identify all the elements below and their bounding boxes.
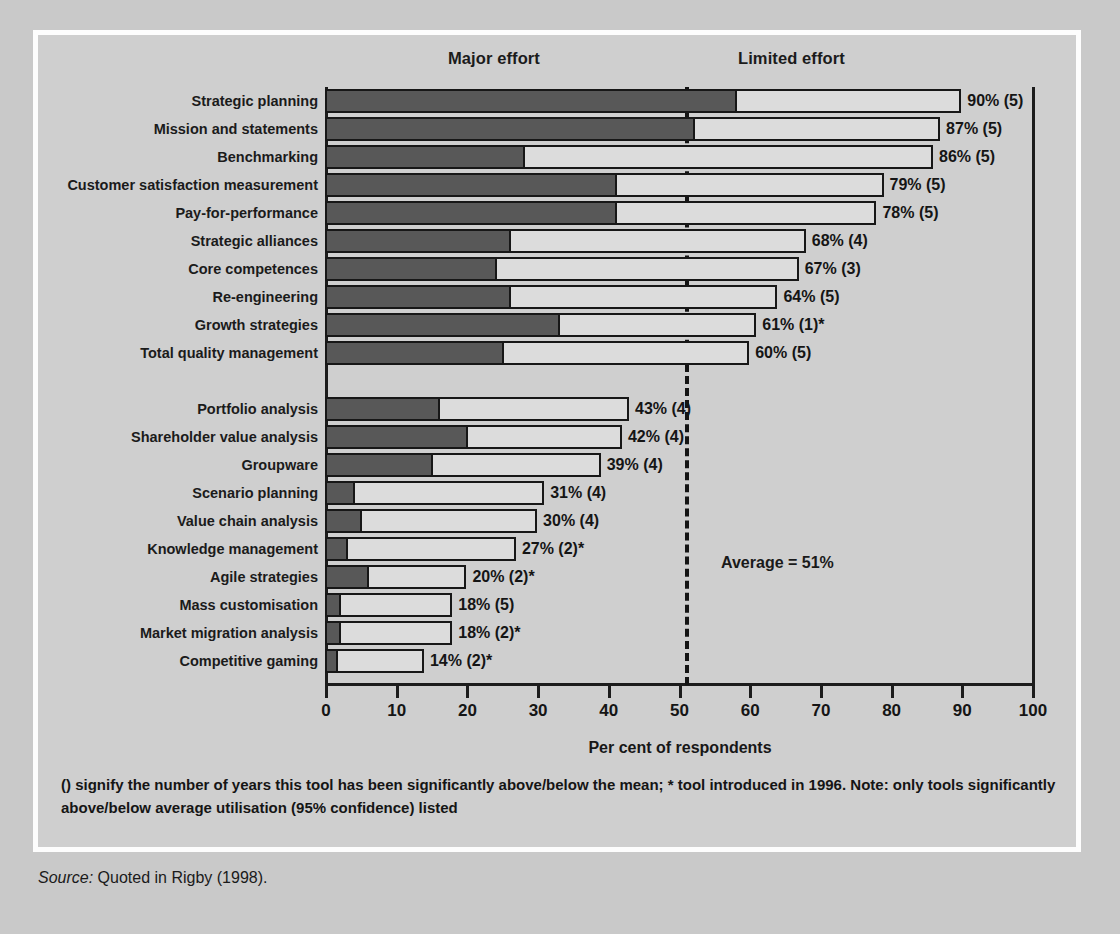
x-axis-tick [608,685,611,698]
stacked-bar [325,593,452,617]
stacked-bar [325,509,537,533]
bar-value-label: 39% (4) [607,454,663,476]
bar-row: Mass customisation18% (5) [38,593,1076,617]
bar-row-label: Market migration analysis [18,623,318,643]
x-axis-tick-label: 60 [741,701,760,721]
bar-row-label: Scenario planning [18,483,318,503]
bar-row: Strategic planning90% (5) [38,89,1076,113]
bar-row: Strategic alliances68% (4) [38,229,1076,253]
stacked-bar [325,537,516,561]
bar-row-label: Competitive gaming [18,651,318,671]
bar-row: Knowledge management27% (2)* [38,537,1076,561]
column-header-major-effort: Major effort [448,49,540,68]
stacked-bar [325,425,622,449]
bar-segment-major-effort [327,651,338,671]
bar-row: Customer satisfaction measurement79% (5) [38,173,1076,197]
bar-value-label: 42% (4) [628,426,684,448]
x-axis-tick-label: 20 [458,701,477,721]
bar-value-label: 78% (5) [882,202,938,224]
bar-row-label: Pay-for-performance [18,203,318,223]
x-axis-tick [1032,685,1035,698]
bar-value-label: 87% (5) [946,118,1002,140]
bar-segment-major-effort [327,623,341,643]
plot-area: Strategic planning90% (5)Mission and sta… [38,87,1076,712]
stacked-bar [325,481,544,505]
bar-row-label: Mission and statements [18,119,318,139]
stacked-bar [325,257,799,281]
bar-row-label: Value chain analysis [18,511,318,531]
bar-row: Mission and statements87% (5) [38,117,1076,141]
bar-segment-major-effort [327,511,362,531]
bar-row-label: Benchmarking [18,147,318,167]
x-axis-tick [961,685,964,698]
bar-row-label: Portfolio analysis [18,399,318,419]
bar-value-label: 68% (4) [812,230,868,252]
bar-row-label: Groupware [18,455,318,475]
x-axis-tick [891,685,894,698]
bar-segment-major-effort [327,483,355,503]
bar-row: Re-engineering64% (5) [38,285,1076,309]
bar-row: Growth strategies61% (1)* [38,313,1076,337]
footnote-text: () signify the number of years this tool… [61,773,1056,819]
x-axis-tick [396,685,399,698]
bar-segment-major-effort [327,399,440,419]
bar-value-label: 86% (5) [939,146,995,168]
bar-row: Portfolio analysis43% (4) [38,397,1076,421]
bar-row-label: Total quality management [18,343,318,363]
bar-value-label: 18% (5) [458,594,514,616]
stacked-bar [325,313,756,337]
bar-row: Benchmarking86% (5) [38,145,1076,169]
x-axis-tick-label: 10 [387,701,406,721]
bar-row: Agile strategies20% (2)* [38,565,1076,589]
bar-row-label: Mass customisation [18,595,318,615]
x-axis-tick-label: 90 [953,701,972,721]
column-header-limited-effort: Limited effort [738,49,845,68]
x-axis-tick-label: 50 [670,701,689,721]
average-annotation: Average = 51% [721,554,834,572]
bar-row: Scenario planning31% (4) [38,481,1076,505]
source-line: Source: Quoted in Rigby (1998). [38,869,267,887]
x-axis-tick-label: 40 [599,701,618,721]
bar-value-label: 14% (2)* [430,650,492,672]
stacked-bar [325,453,601,477]
stacked-bar [325,201,876,225]
bar-value-label: 64% (5) [783,286,839,308]
bar-row-label: Knowledge management [18,539,318,559]
stacked-bar [325,621,452,645]
stacked-bar [325,229,806,253]
bar-row: Pay-for-performance78% (5) [38,201,1076,225]
bar-row-label: Core competences [18,259,318,279]
bar-row-label: Re-engineering [18,287,318,307]
bar-row-label: Agile strategies [18,567,318,587]
bar-row: Groupware39% (4) [38,453,1076,477]
chart-panel: Major effort Limited effort Strategic pl… [38,35,1076,847]
stacked-bar [325,397,629,421]
x-axis-tick [749,685,752,698]
bar-value-label: 30% (4) [543,510,599,532]
bar-segment-major-effort [327,203,617,223]
stacked-bar [325,173,884,197]
bar-segment-major-effort [327,147,525,167]
bar-value-label: 20% (2)* [472,566,534,588]
bar-value-label: 18% (2)* [458,622,520,644]
bar-segment-major-effort [327,119,695,139]
x-axis-tick [537,685,540,698]
bar-segment-major-effort [327,259,497,279]
x-axis-tick-label: 100 [1019,701,1047,721]
stacked-bar [325,565,466,589]
stacked-bar [325,649,424,673]
figure-container: Major effort Limited effort Strategic pl… [0,0,1120,934]
source-text: Quoted in Rigby (1998). [93,869,267,886]
stacked-bar [325,117,940,141]
bar-value-label: 79% (5) [890,174,946,196]
bar-row-label: Growth strategies [18,315,318,335]
bar-row: Market migration analysis18% (2)* [38,621,1076,645]
bar-segment-major-effort [327,231,511,251]
bar-segment-major-effort [327,315,560,335]
bar-row-label: Shareholder value analysis [18,427,318,447]
bar-value-label: 27% (2)* [522,538,584,560]
bar-row: Competitive gaming14% (2)* [38,649,1076,673]
x-axis-tick [679,685,682,698]
x-axis-tick [325,685,328,698]
bar-value-label: 43% (4) [635,398,691,420]
